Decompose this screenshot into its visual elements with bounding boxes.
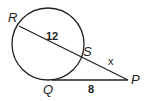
point-label-q: Q <box>43 82 53 97</box>
segment-label-sp: x <box>108 55 114 67</box>
point-label-r: R <box>8 10 17 25</box>
segment-label-qp: 8 <box>88 83 94 95</box>
secant-line-rp <box>19 26 128 80</box>
point-label-p: P <box>131 72 140 87</box>
point-label-s: S <box>83 44 92 59</box>
segment-label-rs: 12 <box>46 30 58 42</box>
circle <box>12 8 84 80</box>
geometry-diagram: R 12 S x P Q 8 <box>0 0 152 101</box>
